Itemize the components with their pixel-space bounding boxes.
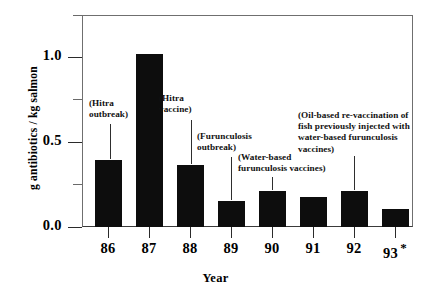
y-tick-minor-1.25 bbox=[73, 15, 82, 16]
bar-87 bbox=[136, 54, 163, 227]
x-tick-label-91-text: 91 bbox=[305, 240, 320, 256]
annotation-hitra-vaccine: (Hitra vaccine) bbox=[159, 93, 211, 115]
leader-line-furunculosis-outbreak bbox=[231, 157, 232, 200]
annotation-water-based-line2: furunculosis vaccines) bbox=[238, 163, 350, 174]
y-tick-major-1.0 bbox=[68, 57, 82, 58]
y-tick-major-0.5 bbox=[68, 142, 82, 143]
annotation-water-based-furunculosis-vaccines: (Water-based furunculosis vaccines) bbox=[238, 152, 350, 174]
x-tick-88 bbox=[190, 227, 191, 238]
bar-chart-figure: 1.0 0.5 0.0 g antibiotics / kg salmon 86… bbox=[0, 0, 431, 297]
x-tick-label-87-text: 87 bbox=[141, 240, 156, 256]
bar-90 bbox=[259, 191, 286, 227]
x-tick-label-93-text: 93 bbox=[383, 245, 398, 261]
x-tick-label-90-text: 90 bbox=[264, 240, 279, 256]
bar-93 bbox=[382, 209, 409, 227]
x-tick-label-86-text: 86 bbox=[100, 240, 115, 256]
annotation-oil-based-line1: (Oil-based re-vaccination of bbox=[298, 110, 410, 121]
annotation-hitra-outbreak-line2: outbreak) bbox=[89, 109, 145, 120]
annotation-hitra-outbreak-line1: (Hitra bbox=[89, 98, 145, 109]
x-tick-92 bbox=[354, 227, 355, 238]
bar-88 bbox=[177, 165, 204, 227]
x-tick-label-93: 93* bbox=[368, 240, 422, 262]
y-tick-minor-0.75 bbox=[73, 99, 82, 100]
annotation-oil-based-line4: vaccines) bbox=[298, 144, 410, 155]
annotation-oil-based-line3: water-based furunculosis bbox=[298, 132, 410, 143]
annotation-oil-based-revaccination: (Oil-based re-vaccination of fish previo… bbox=[298, 110, 410, 155]
leader-line-water-based-furunculosis-vaccines bbox=[272, 177, 273, 190]
leader-line-hitra-vaccine bbox=[191, 120, 192, 164]
annotation-furunculosis-outbreak: (Furunculosis outbreak) bbox=[197, 131, 275, 153]
x-tick-label-88-text: 88 bbox=[182, 240, 197, 256]
x-tick-label-89-text: 89 bbox=[223, 240, 238, 256]
x-tick-86 bbox=[108, 227, 109, 238]
x-tick-93 bbox=[395, 227, 396, 238]
y-tick-major-0.0 bbox=[68, 227, 82, 228]
x-axis-title: Year bbox=[0, 271, 431, 286]
x-tick-label-92-text: 92 bbox=[346, 240, 361, 256]
y-axis-title: g antibiotics / kg salmon bbox=[27, 33, 39, 223]
x-tick-91 bbox=[313, 227, 314, 238]
annotation-oil-based-line2: fish previously injected with bbox=[298, 121, 410, 132]
x-tick-label-93-footnote-marker: * bbox=[400, 240, 407, 255]
bar-89 bbox=[218, 201, 245, 227]
x-tick-90 bbox=[272, 227, 273, 238]
leader-line-oil-based-revaccination bbox=[354, 156, 355, 190]
bar-86 bbox=[95, 160, 122, 227]
bar-92 bbox=[341, 191, 368, 227]
leader-line-hitra-outbreak bbox=[110, 124, 111, 159]
annotation-hitra-vaccine-line1: (Hitra bbox=[159, 93, 211, 104]
x-tick-87 bbox=[149, 227, 150, 238]
x-tick-89 bbox=[231, 227, 232, 238]
bar-91 bbox=[300, 197, 327, 227]
annotation-hitra-vaccine-line2: vaccine) bbox=[159, 104, 211, 115]
y-tick-minor-0.25 bbox=[73, 184, 82, 185]
annotation-furunculosis-outbreak-line1: (Furunculosis bbox=[197, 131, 275, 142]
annotation-hitra-outbreak: (Hitra outbreak) bbox=[89, 98, 145, 120]
